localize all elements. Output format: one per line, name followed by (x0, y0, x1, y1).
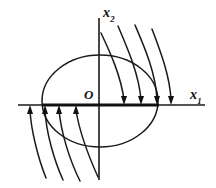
phase-plane-figure: x2 x1 O (0, 0, 216, 188)
x1-axis-label-subscript: 1 (197, 96, 201, 106)
phase-plane-canvas (0, 0, 216, 188)
lower-left-trajectory-group (27, 105, 98, 181)
arrowhead-up-1 (27, 105, 33, 114)
x2-axis-label-subscript: 2 (110, 14, 114, 24)
x1-axis-label-base: x (190, 87, 197, 102)
trajectory-up-1 (30, 110, 46, 178)
trajectory-down-1 (101, 33, 124, 100)
origin-label: O (84, 88, 93, 101)
x2-axis-label: x2 (103, 6, 114, 22)
trajectory-up-3 (59, 110, 80, 181)
arrowhead-down-4 (168, 96, 174, 105)
trajectory-down-4 (152, 29, 171, 100)
trajectory-down-3 (135, 25, 157, 100)
x2-axis-label-base: x (103, 5, 110, 20)
x1-axis-label: x1 (190, 88, 201, 104)
